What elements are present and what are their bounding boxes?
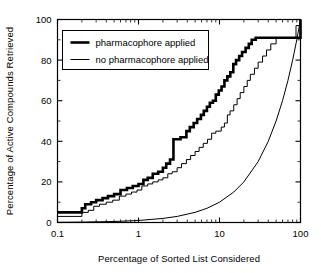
x-axis-tick-labels: 0.1110100	[51, 228, 309, 239]
x-tick-label: 1	[136, 228, 141, 239]
y-tick-label: 100	[36, 14, 52, 25]
y-tick-label: 20	[41, 176, 52, 187]
y-axis-tick-labels: 020406080100	[36, 14, 52, 228]
y-axis-title: Percentage of Active Compounds Retrieved	[4, 27, 15, 215]
legend-label-1: no pharmacophore applied	[96, 54, 209, 65]
legend-label-0: pharmacophore applied	[96, 37, 196, 48]
chart-figure: 0.1110100 020406080100 pharmacophore app…	[0, 0, 321, 273]
chart-svg: 0.1110100 020406080100 pharmacophore app…	[0, 0, 321, 273]
y-tick-label: 60	[41, 95, 52, 106]
x-tick-label: 0.1	[51, 228, 64, 239]
y-tick-label: 40	[41, 136, 52, 147]
x-tick-label: 100	[293, 228, 309, 239]
y-tick-label: 0	[46, 217, 51, 228]
chart-legend: pharmacophore appliedno pharmacophore ap…	[63, 31, 209, 70]
x-tick-label: 10	[214, 228, 225, 239]
x-axis-title: Percentage of Sorted List Considered	[98, 253, 260, 264]
y-tick-label: 80	[41, 55, 52, 66]
